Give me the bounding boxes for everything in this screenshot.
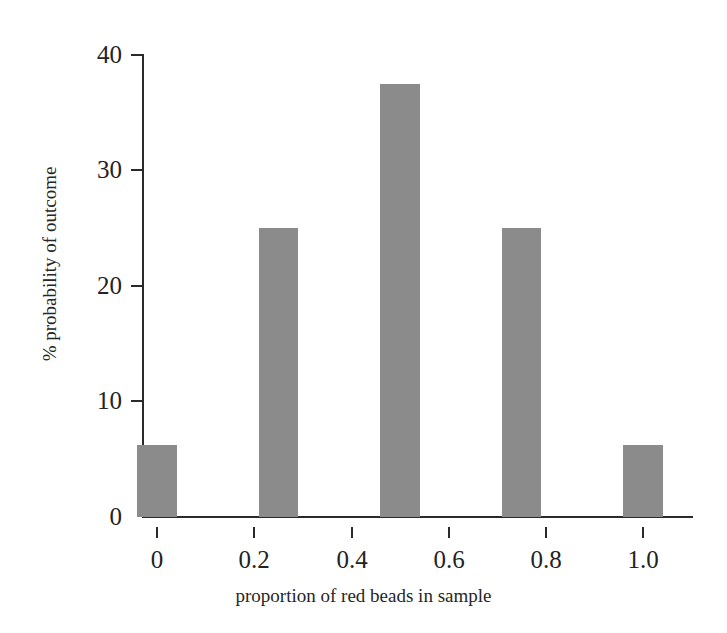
x-tick-label-0p6: 0.6	[404, 546, 494, 574]
bar-0p5	[380, 84, 420, 517]
y-axis-title: % probability of outcome	[39, 124, 61, 404]
x-tick-mark-0p8	[545, 527, 547, 538]
y-tick-mark-20	[131, 285, 142, 287]
bar-0	[137, 445, 177, 517]
x-tick-mark-0p4	[351, 527, 353, 538]
x-tick-label-0p2: 0.2	[209, 546, 299, 574]
bar-0p25	[259, 228, 299, 517]
y-tick-label-10: 10	[62, 388, 122, 413]
x-tick-label-1p0: 1.0	[598, 546, 688, 574]
x-tick-mark-1p0	[642, 527, 644, 538]
bar-1p0	[623, 445, 663, 517]
bar-0p75	[502, 228, 542, 517]
y-tick-label-30: 30	[62, 157, 122, 182]
y-tick-mark-10	[131, 400, 142, 402]
x-tick-mark-0p2	[253, 527, 255, 538]
x-tick-mark-0	[156, 527, 158, 538]
x-tick-label-0: 0	[112, 546, 202, 574]
y-tick-label-20: 20	[62, 273, 122, 298]
y-tick-mark-30	[131, 169, 142, 171]
x-tick-label-0p4: 0.4	[307, 546, 397, 574]
x-axis-title: proportion of red beads in sample	[0, 585, 727, 607]
y-tick-label-0: 0	[62, 504, 122, 529]
y-tick-mark-40	[131, 54, 142, 56]
y-tick-label-40: 40	[62, 42, 122, 67]
x-tick-label-0p8: 0.8	[501, 546, 591, 574]
bar-chart: 40 30 20 10 0 0 0.2 0.4 0.6 0.8 1.0 prop…	[0, 0, 727, 633]
x-tick-mark-0p6	[448, 527, 450, 538]
